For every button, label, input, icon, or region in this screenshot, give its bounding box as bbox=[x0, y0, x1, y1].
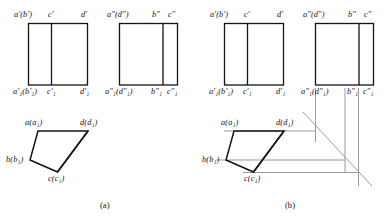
label-front-bottom-right: d′₁ bbox=[80, 88, 89, 96]
side-view-outline bbox=[120, 24, 178, 86]
figure-canvas bbox=[0, 0, 392, 221]
label-front-bottom-middle: c′₁ bbox=[243, 88, 252, 96]
label-front-bottom-middle: c′₁ bbox=[47, 88, 56, 96]
label-front-top-left: a′(b′) bbox=[210, 11, 228, 19]
label-top-vertex-d: d(d₁) bbox=[276, 119, 293, 127]
group-b-front-view-rectangle bbox=[225, 24, 284, 86]
label-top-vertex-b: b(b₁) bbox=[6, 156, 23, 164]
engineering-projection-figure: a′(b′) c′ d′ a′₁(b′₁) c′₁ d′₁ a″(d″) b″ … bbox=[0, 0, 392, 221]
label-side-bottom-right: c″₁ bbox=[167, 88, 177, 96]
miter-line-45deg bbox=[303, 112, 372, 186]
front-view-outline bbox=[225, 24, 284, 86]
label-side-top-left: a″(d″) bbox=[303, 11, 325, 19]
label-top-vertex-b: b(b₁) bbox=[202, 156, 219, 164]
label-front-bottom-left: a′₁(b′₁) bbox=[13, 88, 37, 96]
front-view-outline bbox=[29, 24, 88, 86]
group-a-drawing bbox=[29, 24, 178, 173]
label-side-top-left: a″(d″) bbox=[107, 11, 129, 19]
label-side-bottom-left: a″₁(d″₁) bbox=[105, 88, 133, 96]
group-b-construction-lines bbox=[216, 88, 372, 186]
label-front-top-middle: c′ bbox=[244, 11, 250, 19]
group-b-top-view-quadrilateral bbox=[226, 131, 284, 172]
group-b-side-view-rectangle bbox=[316, 24, 374, 86]
label-front-top-left: a′(b′) bbox=[14, 11, 32, 19]
label-top-vertex-c: c(c₁) bbox=[244, 175, 260, 183]
group-a-side-view-rectangle bbox=[120, 24, 178, 86]
label-side-bottom-left: a″₁(d″₁) bbox=[301, 88, 329, 96]
top-view-outline bbox=[226, 131, 284, 172]
label-front-top-middle: c′ bbox=[48, 11, 54, 19]
label-front-bottom-left: a′₁(b′₁) bbox=[209, 88, 233, 96]
label-side-top-right: c″ bbox=[364, 11, 371, 19]
top-view-diagonal-dc bbox=[254, 131, 285, 172]
label-side-top-middle: b″ bbox=[348, 11, 356, 19]
top-view-outline bbox=[30, 131, 88, 172]
group-a-front-view-rectangle bbox=[29, 24, 88, 86]
group-a-top-view-quadrilateral bbox=[30, 131, 88, 172]
label-top-vertex-a: a(a₁) bbox=[25, 119, 42, 127]
label-top-vertex-d: d(d₁) bbox=[80, 119, 97, 127]
side-view-outline bbox=[316, 24, 374, 86]
caption-b: (b) bbox=[285, 201, 295, 210]
label-side-top-middle: b″ bbox=[152, 11, 160, 19]
label-side-bottom-middle: b″₁ bbox=[151, 88, 162, 96]
label-front-top-right: d′ bbox=[277, 11, 283, 19]
caption-a: (a) bbox=[100, 201, 110, 210]
label-top-vertex-c: c(c₁) bbox=[48, 175, 64, 183]
label-front-bottom-right: d′₁ bbox=[276, 88, 285, 96]
top-view-diagonal-dc bbox=[58, 131, 89, 172]
label-side-bottom-middle: b″₁ bbox=[347, 88, 358, 96]
label-side-bottom-right: c″₁ bbox=[363, 88, 373, 96]
label-front-top-right: d′ bbox=[81, 11, 87, 19]
label-side-top-right: c″ bbox=[168, 11, 175, 19]
group-b-drawing bbox=[216, 24, 374, 187]
label-top-vertex-a: a(a₁) bbox=[221, 119, 238, 127]
